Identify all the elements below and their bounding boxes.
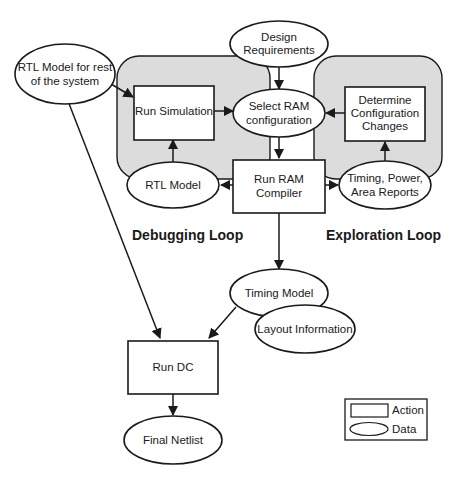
node-label: configuration [246, 114, 312, 126]
node-rtl-model-rest: RTL Model for rest of the system [15, 44, 115, 104]
node-label: Run DC [153, 361, 194, 373]
node-final-netlist: Final Netlist [124, 416, 222, 464]
legend-action-swatch [351, 404, 388, 417]
node-run-simulation: Run Simulation [134, 86, 214, 140]
node-label: RTL Model [145, 179, 201, 191]
node-label: Design [261, 31, 297, 43]
node-label: Area Reports [351, 186, 419, 198]
edge-timingmodel-to-rundc [209, 307, 236, 338]
node-label: Requirements [243, 44, 315, 56]
node-label: Timing Model [245, 287, 314, 299]
node-run-dc: Run DC [128, 341, 218, 394]
node-label: Layout Information [257, 323, 352, 335]
legend-data-swatch [350, 423, 388, 436]
legend: Action Data [345, 399, 427, 440]
debugging-loop-label: Debugging Loop [132, 227, 243, 243]
legend-action-label: Action [392, 404, 424, 416]
node-label: Changes [362, 120, 408, 132]
node-label: Timing, Power, [347, 172, 423, 184]
node-determine-configuration-changes: Determine Configuration Changes [345, 87, 425, 141]
node-timing-power-area-reports: Timing, Power, Area Reports [339, 161, 431, 209]
legend-data-label: Data [392, 423, 417, 435]
node-label: Run RAM [254, 173, 304, 185]
node-label: Select RAM [249, 100, 310, 112]
ram-design-flow-diagram: RTL Model for rest of the system Design … [0, 0, 456, 477]
node-design-requirements: Design Requirements [230, 21, 328, 67]
node-label: Run Simulation [135, 105, 213, 117]
node-label: Configuration [351, 107, 419, 119]
node-label: Determine [358, 94, 411, 106]
node-label: of the system [31, 75, 99, 87]
node-layout-information: Layout Information [255, 305, 355, 353]
exploration-loop-label: Exploration Loop [326, 227, 441, 243]
node-label: RTL Model for rest [18, 61, 113, 73]
node-select-ram-configuration: Select RAM configuration [233, 89, 325, 137]
node-label: Final Netlist [143, 434, 204, 446]
node-rtl-model: RTL Model [127, 162, 219, 208]
node-run-ram-compiler: Run RAM Compiler [233, 160, 325, 213]
node-label: Compiler [256, 187, 302, 199]
